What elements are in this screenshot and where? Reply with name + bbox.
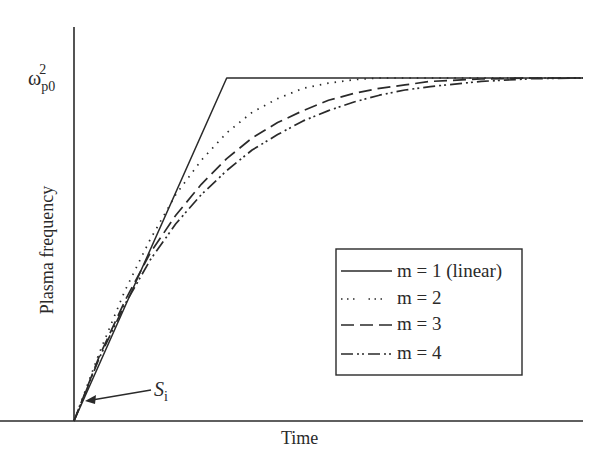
legend-label: m = 1 (linear): [397, 260, 502, 282]
legend: m = 1 (linear) m = 2 m = 3 m = 4: [336, 249, 522, 375]
annotation-label: Si: [154, 378, 168, 404]
legend-label: m = 2: [397, 287, 442, 308]
x-axis-label: Time: [281, 428, 318, 448]
annotation-arrow: [92, 390, 151, 400]
plasma-frequency-chart: ωp02 Plasma frequency Time Si m = 1 (lin…: [0, 0, 611, 465]
legend-label: m = 4: [397, 342, 442, 363]
arrowhead-icon: [85, 395, 96, 404]
y-tick-label: ωp02: [28, 62, 55, 94]
y-axis-label: Plasma frequency: [37, 186, 57, 314]
legend-label: m = 3: [397, 313, 442, 334]
annotation-si: Si: [85, 378, 168, 404]
